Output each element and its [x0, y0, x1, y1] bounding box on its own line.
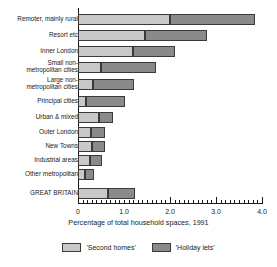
x-tick-minor	[152, 200, 153, 204]
x-tick-minor	[115, 200, 116, 204]
bar-segment-holiday-lets	[101, 62, 156, 73]
bar-segment-second-homes	[78, 141, 92, 152]
category-label: Resort etc	[4, 32, 78, 39]
x-tick-minor	[119, 200, 120, 204]
legend-item-second-homes: 'Second homes'	[62, 243, 135, 252]
category-label: Industrial areas	[4, 157, 78, 164]
x-tick-minor	[83, 200, 84, 204]
stacked-bar	[78, 30, 262, 41]
chart-row: GREAT BRITAIN	[0, 186, 277, 200]
stacked-bar	[78, 62, 262, 73]
plot-area: Remoter, mainly ruralResort etcInner Lon…	[0, 0, 277, 200]
bar-segment-second-homes	[78, 188, 108, 199]
chart-row: Outer London	[0, 125, 277, 139]
chart-row: Resort etc	[0, 28, 277, 42]
x-tick-label: 3.0	[211, 208, 221, 215]
x-tick-minor	[92, 200, 93, 204]
bar-segment-second-homes	[78, 169, 85, 180]
bar-segment-holiday-lets	[145, 30, 207, 41]
stacked-bar	[78, 46, 262, 57]
bar-segment-holiday-lets	[92, 141, 105, 152]
chart-row: Urban & mixed	[0, 110, 277, 124]
bar-segment-second-homes	[78, 30, 145, 41]
x-tick-minor	[198, 200, 199, 204]
x-tick-minor	[230, 200, 231, 204]
x-axis-title: Percentage of total household spaces, 19…	[0, 218, 277, 227]
x-tick-minor	[142, 200, 143, 204]
x-tick-minor	[248, 200, 249, 204]
category-label: Principal cities	[4, 98, 78, 105]
legend-swatch-second-homes	[62, 243, 81, 252]
x-tick-minor	[221, 200, 222, 204]
x-tick-minor	[124, 200, 125, 204]
chart-row: Industrial areas	[0, 153, 277, 167]
bar-segment-holiday-lets	[99, 112, 114, 123]
chart-legend: 'Second homes' 'Holiday lets'	[0, 243, 277, 252]
category-label: Other metropolitan	[4, 171, 78, 178]
stacked-bar	[78, 155, 262, 166]
x-tick-minor	[110, 200, 111, 204]
x-tick-minor	[211, 200, 212, 204]
stacked-bar	[78, 169, 262, 180]
bar-segment-holiday-lets	[90, 155, 102, 166]
x-tick-minor	[207, 200, 208, 204]
legend-swatch-holiday-lets	[152, 243, 171, 252]
x-tick-major	[216, 197, 217, 204]
x-tick-minor	[133, 200, 134, 204]
chart-row: New Towns	[0, 139, 277, 153]
bar-segment-second-homes	[78, 46, 133, 57]
bar-segment-holiday-lets	[108, 188, 136, 199]
chart-row: Remoter, mainly rural	[0, 12, 277, 26]
x-tick-major	[78, 197, 79, 204]
x-tick-minor	[87, 200, 88, 204]
x-tick-minor	[161, 200, 162, 204]
chart-row: Small non- metropolitan cities	[0, 60, 277, 74]
bar-segment-second-homes	[78, 62, 101, 73]
x-tick-minor	[101, 200, 102, 204]
legend-label-holiday-lets: 'Holiday lets'	[176, 244, 215, 251]
stacked-bar	[78, 127, 262, 138]
bar-segment-holiday-lets	[85, 169, 94, 180]
x-tick-minor	[156, 200, 157, 204]
stacked-bar	[78, 96, 262, 107]
category-label: Small non- metropolitan cities	[4, 60, 78, 73]
x-tick-minor	[188, 200, 189, 204]
x-tick-label: 4.0	[257, 208, 267, 215]
x-tick-major	[262, 197, 263, 204]
chart-row: Inner London	[0, 44, 277, 58]
x-tick-minor	[257, 200, 258, 204]
x-tick-minor	[225, 200, 226, 204]
bar-segment-second-homes	[78, 79, 93, 90]
x-tick-minor	[138, 200, 139, 204]
chart-row: Large non- metropolitan cities	[0, 77, 277, 91]
x-tick-minor	[234, 200, 235, 204]
x-tick-minor	[239, 200, 240, 204]
category-label: Inner London	[4, 48, 78, 55]
legend-label-second-homes: 'Second homes'	[86, 244, 135, 251]
category-label: Urban & mixed	[4, 114, 78, 121]
x-tick-minor	[129, 200, 130, 204]
category-label: Remoter, mainly rural	[4, 16, 78, 23]
x-tick-label: 2.0	[165, 208, 175, 215]
chart-row: Other metropolitan	[0, 167, 277, 181]
x-tick-minor	[147, 200, 148, 204]
x-tick-label: 0	[76, 208, 80, 215]
bar-segment-holiday-lets	[86, 96, 125, 107]
x-tick-minor	[165, 200, 166, 204]
x-tick-minor	[244, 200, 245, 204]
x-tick-minor	[253, 200, 254, 204]
bar-segment-second-homes	[78, 96, 86, 107]
bar-segment-holiday-lets	[133, 46, 174, 57]
x-tick-minor	[106, 200, 107, 204]
bar-segment-second-homes	[78, 112, 99, 123]
category-label: Large non- metropolitan cities	[4, 77, 78, 90]
stacked-bar	[78, 141, 262, 152]
x-tick-minor	[96, 200, 97, 204]
chart-page: Remoter, mainly ruralResort etcInner Lon…	[0, 0, 277, 267]
bar-segment-holiday-lets	[170, 14, 255, 25]
bar-segment-second-homes	[78, 127, 91, 138]
x-tick-major	[170, 197, 171, 204]
x-tick-label: 1.0	[119, 208, 129, 215]
x-tick-minor	[184, 200, 185, 204]
bar-segment-second-homes	[78, 155, 90, 166]
